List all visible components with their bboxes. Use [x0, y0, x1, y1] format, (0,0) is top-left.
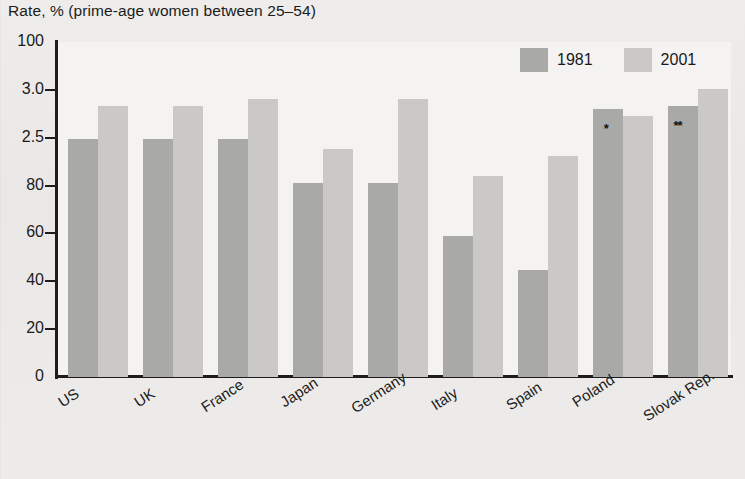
y-axis-tick-20 — [45, 328, 56, 330]
x-axis-category-labels: USUKFranceJapanGermanyItalySpainPolandSl… — [0, 0, 745, 479]
x-axis-label-slovak-rep-: Slovak Rep. — [640, 366, 717, 424]
y-axis-tick-2-5 — [45, 137, 56, 139]
x-axis-label-germany: Germany — [348, 368, 409, 416]
y-axis-tick-3-0 — [45, 89, 56, 91]
x-axis-label-uk: UK — [131, 385, 158, 411]
x-axis-label-italy: Italy — [428, 384, 460, 413]
y-axis-tick-60 — [45, 232, 56, 234]
x-axis-label-japan: Japan — [277, 374, 321, 411]
y-axis-tick-80 — [45, 185, 56, 187]
x-axis-label-france: France — [198, 376, 246, 416]
y-axis-tick-40 — [45, 280, 56, 282]
x-axis-label-poland: Poland — [569, 371, 617, 411]
x-axis-label-us: US — [55, 385, 82, 411]
bar-chart-figure: Rate, % (prime-age women between 25–54) … — [0, 0, 745, 479]
x-axis-label-spain: Spain — [503, 378, 544, 413]
